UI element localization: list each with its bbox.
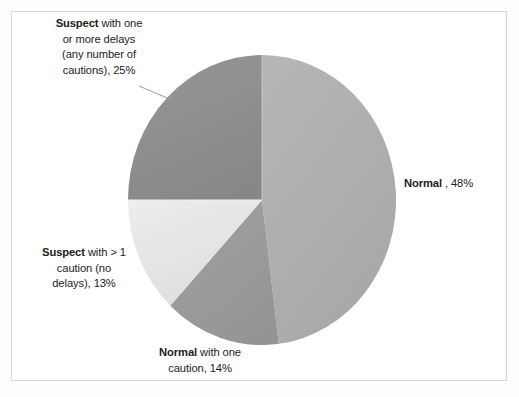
- pie-label-suspect-delays-bold: Suspect: [56, 17, 99, 29]
- pie-label-suspect-delays-line4: cautions), 25%: [63, 64, 136, 76]
- pie-label-suspect-delays-line3: (any number of: [62, 48, 136, 60]
- pie-label-normal-rest: , 48%: [442, 177, 473, 189]
- pie-svg: [128, 55, 396, 345]
- pie-label-suspect-delays-line1: with one: [98, 17, 142, 29]
- pie-label-suspect-cautions-bold: Suspect: [42, 246, 85, 258]
- pie-label-normal-caution-line1: with one: [197, 346, 241, 358]
- pie-label-normal-caution: Normal with one caution, 14%: [110, 345, 290, 376]
- pie-label-suspect-cautions-line3: delays), 13%: [52, 277, 115, 289]
- chart-figure: Suspect with one or more delays (any num…: [0, 0, 519, 397]
- pie-label-normal-caution-line2: caution, 14%: [168, 362, 231, 374]
- pie-label-suspect-delays: Suspect with one or more delays (any num…: [22, 16, 176, 78]
- pie-graphic: [128, 55, 396, 345]
- pie-label-suspect-delays-line2: or more delays: [63, 33, 136, 45]
- pie-label-normal-caution-bold: Normal: [159, 346, 197, 358]
- pie-chart-plot-area: Suspect with one or more delays (any num…: [0, 0, 519, 397]
- pie-label-suspect-cautions: Suspect with > 1 caution (no delays), 13…: [14, 245, 154, 292]
- pie-label-suspect-cautions-line1: with > 1: [85, 246, 126, 258]
- pie-slice-normal: [262, 55, 396, 344]
- pie-label-normal-bold: Normal: [404, 177, 442, 189]
- pie-label-suspect-cautions-line2: caution (no: [57, 262, 111, 274]
- pie-label-normal: Normal , 48%: [404, 176, 510, 192]
